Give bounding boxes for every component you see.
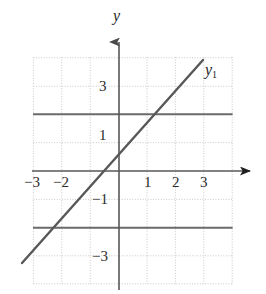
x-tick-label: 3 — [200, 175, 208, 190]
x-tick-label: −2 — [53, 175, 69, 190]
y-axis-label: y — [113, 8, 120, 24]
graph-figure: y y1 −3 −2 1 2 3 3 1 −1 −3 — [0, 0, 266, 294]
y-tick-label: −1 — [92, 192, 108, 207]
y-tick-label: 1 — [99, 128, 107, 143]
y-tick-label: −3 — [92, 249, 108, 264]
coordinate-plane — [0, 0, 266, 294]
curve-label-subscript: 1 — [212, 69, 217, 80]
x-tick-label: 1 — [144, 175, 152, 190]
curve-label-y1: y1 — [205, 62, 217, 78]
x-tick-label: −3 — [24, 175, 40, 190]
x-tick-label: 2 — [172, 175, 180, 190]
y-tick-label: 3 — [99, 79, 107, 94]
